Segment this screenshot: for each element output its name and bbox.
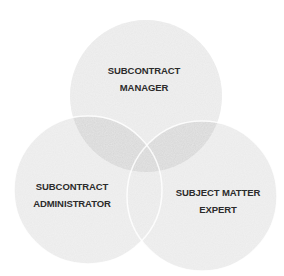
label-manager-line2: MANAGER <box>108 79 180 96</box>
label-administrator-line1: SUBCONTRACT <box>33 178 111 195</box>
label-expert-line2: EXPERT <box>176 201 260 218</box>
label-administrator-line2: ADMINISTRATOR <box>33 195 111 212</box>
venn-diagram <box>0 0 284 276</box>
label-subject-matter-expert: SUBJECT MATTER EXPERT <box>176 184 260 218</box>
label-subcontract-administrator: SUBCONTRACT ADMINISTRATOR <box>33 178 111 212</box>
label-expert-line1: SUBJECT MATTER <box>176 184 260 201</box>
label-subcontract-manager: SUBCONTRACT MANAGER <box>108 62 180 96</box>
label-manager-line1: SUBCONTRACT <box>108 62 180 79</box>
